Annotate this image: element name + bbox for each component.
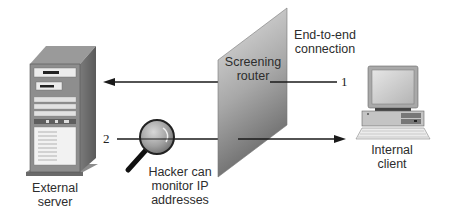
screening-router-label: Screening router <box>220 55 286 83</box>
external-server-icon <box>26 46 98 176</box>
magnifying-glass-icon <box>128 120 174 170</box>
client-label-line1: Internal <box>357 143 427 157</box>
server-label-line1: External <box>20 181 90 195</box>
router-label-line2: router <box>220 69 286 83</box>
connection-2-number: 2 <box>103 131 110 147</box>
connection-1-arrow <box>103 78 226 86</box>
hacker-label-line2: monitor IP <box>140 179 220 193</box>
annotation-line1: End-to-end <box>285 28 365 42</box>
arrowhead-right-icon <box>334 135 346 143</box>
router-label-line1: Screening <box>220 55 286 69</box>
external-server-label: External server <box>20 181 90 209</box>
internal-client-label: Internal client <box>357 143 427 171</box>
end-to-end-annotation: End-to-end connection <box>285 28 365 56</box>
hacker-label-line3: addresses <box>140 193 220 207</box>
arrowhead-left-icon <box>103 78 115 86</box>
screening-router-panel <box>218 8 287 177</box>
hacker-label-line1: Hacker can <box>140 165 220 179</box>
annotation-line2: connection <box>285 42 365 56</box>
internal-client-computer-icon <box>356 66 430 139</box>
client-label-line2: client <box>357 157 427 171</box>
server-label-line2: server <box>20 195 90 209</box>
connection-1-number: 1 <box>341 74 348 90</box>
hacker-label: Hacker can monitor IP addresses <box>140 165 220 207</box>
